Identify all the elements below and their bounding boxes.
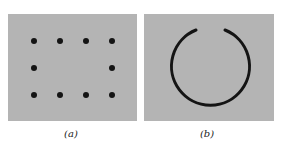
- panel-a-dot-grid: [8, 14, 137, 121]
- dot: [83, 38, 89, 44]
- dot: [109, 38, 115, 44]
- dot: [83, 92, 89, 98]
- caption-b: (b): [187, 128, 227, 139]
- dot: [57, 92, 63, 98]
- dot: [109, 92, 115, 98]
- open-circle-icon: [144, 14, 274, 121]
- dot: [31, 38, 37, 44]
- caption-a: (a): [51, 128, 91, 139]
- dot: [57, 38, 63, 44]
- panel-b-open-circle: [144, 14, 274, 121]
- dot: [31, 92, 37, 98]
- dot: [109, 65, 115, 71]
- dot: [31, 65, 37, 71]
